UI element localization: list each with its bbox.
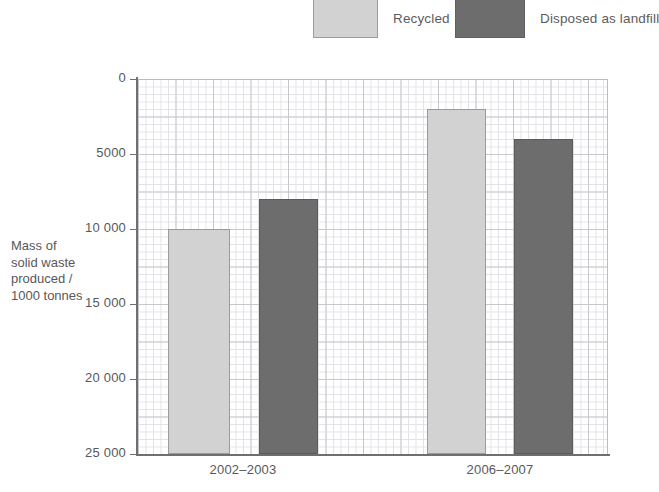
y-tick-mark	[130, 229, 136, 230]
plot-border-right	[607, 79, 608, 454]
y-axis-title-line-1: Mass of	[11, 238, 131, 255]
bar-recycled-2002-2003	[168, 229, 230, 454]
y-tick-mark	[130, 304, 136, 305]
y-axis-title-line-3: produced /	[11, 271, 131, 288]
y-tick-mark	[130, 79, 136, 80]
y-tick-mark	[130, 379, 136, 380]
legend-label-recycled: Recycled	[393, 11, 450, 26]
y-axis-title: Mass of solid waste produced / 1000 tonn…	[11, 238, 131, 304]
y-axis-title-line-4: 1000 tonnes	[11, 288, 131, 305]
y-tick-label: 5000	[0, 145, 126, 160]
bar-landfill-2006-2007	[514, 139, 573, 454]
chart-legend: Recycled Disposed as landfill	[0, 0, 633, 46]
x-axis-line	[136, 454, 610, 456]
y-tick-label: 20 000	[0, 370, 126, 385]
x-tick-label-2002-2003: 2002–2003	[168, 462, 318, 477]
y-tick-label: 10 000	[0, 220, 126, 235]
y-tick-mark	[130, 454, 136, 455]
y-tick-label: 0	[0, 70, 126, 85]
x-tick-label-2006-2007: 2006–2007	[427, 462, 573, 477]
y-tick-mark	[130, 154, 136, 155]
bar-landfill-2002-2003	[259, 199, 318, 454]
y-tick-label: 25 000	[0, 445, 126, 460]
y-axis-line	[136, 77, 138, 456]
y-axis-title-line-2: solid waste	[11, 255, 131, 272]
legend-label-landfill: Disposed as landfill	[540, 11, 659, 26]
bar-recycled-2006-2007	[427, 109, 486, 454]
plot-border-top	[138, 79, 608, 80]
legend-swatch-landfill	[455, 0, 525, 38]
legend-swatch-recycled	[313, 0, 378, 38]
